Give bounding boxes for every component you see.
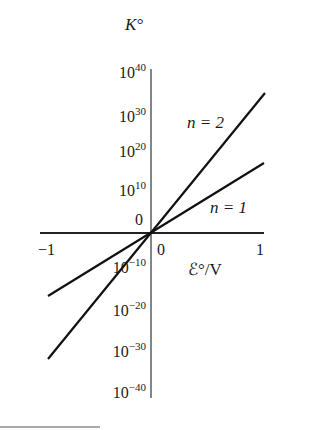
series-label-n2: n = 2 xyxy=(187,114,224,131)
y-tick-1e-40: 10−40 xyxy=(98,385,146,401)
y-tick-1e-30: 10−30 xyxy=(98,344,146,360)
series-line-n2 xyxy=(48,93,265,359)
y-tick-zero: 0 xyxy=(135,212,143,228)
y-tick-1e-10: 10−10 xyxy=(98,260,146,276)
series-line-n1 xyxy=(48,163,264,296)
series-label-n1: n = 1 xyxy=(210,199,247,216)
y-axis-title: K° xyxy=(125,16,143,33)
x-tick-neg1: −1 xyxy=(38,242,55,258)
y-tick-1e30: 1030 xyxy=(98,109,146,125)
x-axis-title: ℰ°/V xyxy=(188,261,222,278)
x-tick-pos1: 1 xyxy=(256,242,264,258)
y-tick-1e-20: 10−20 xyxy=(98,303,146,319)
y-tick-1e10: 1010 xyxy=(98,183,146,199)
y-tick-1e40: 1040 xyxy=(98,65,146,81)
y-tick-1e20: 1020 xyxy=(98,144,146,160)
x-tick-zero: 0 xyxy=(157,242,165,258)
